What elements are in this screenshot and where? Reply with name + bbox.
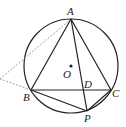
segment-cp xyxy=(87,90,111,111)
label-d: D xyxy=(83,78,92,90)
geometry-diagram: A O B C D P xyxy=(0,0,126,127)
label-b: B xyxy=(23,91,30,103)
dashed-line-ae xyxy=(0,19,71,79)
label-o: O xyxy=(63,68,71,80)
label-a: A xyxy=(66,5,74,17)
label-p: P xyxy=(83,112,91,124)
label-c: C xyxy=(112,87,120,99)
